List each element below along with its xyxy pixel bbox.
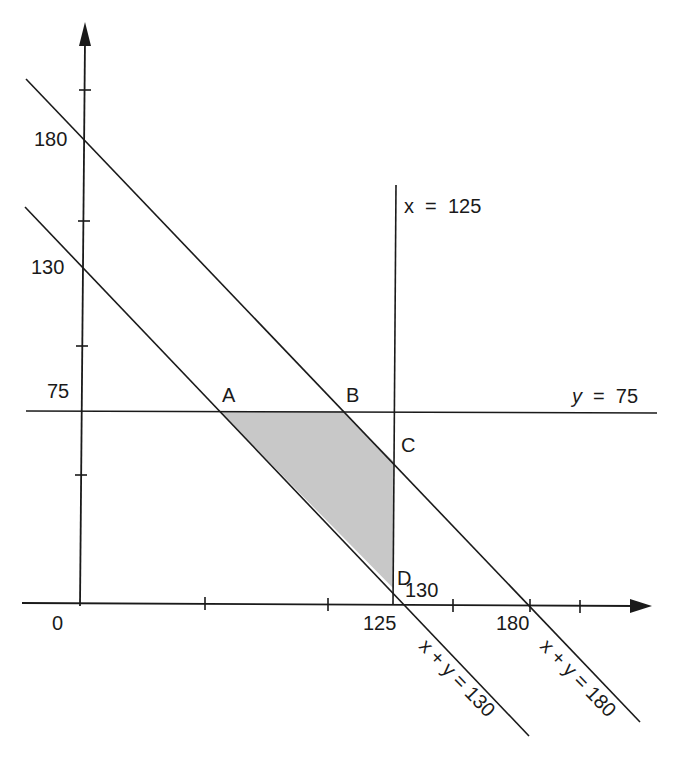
point-b-label: B (346, 384, 359, 406)
label-x-equals-125: x = 125 (404, 195, 481, 217)
label-x-plus-y-130: x + y = 130 (415, 634, 500, 720)
point-d-label: D (397, 567, 411, 589)
label-x-plus-y-180: x + y = 180 (536, 634, 621, 720)
line-x-equals-125 (393, 185, 396, 605)
y-label-130: 130 (31, 256, 64, 278)
label-y-equals-75: = 75 (593, 385, 638, 407)
point-a-label: A (222, 384, 236, 406)
x-label-180: 180 (496, 612, 529, 634)
x-label-125: 125 (363, 612, 396, 634)
line-y-equals-75 (26, 411, 657, 413)
y-axis (80, 40, 85, 606)
line-x-plus-y-180 (26, 79, 640, 722)
point-c-label: C (401, 434, 415, 456)
y-label-180: 180 (34, 128, 67, 150)
y-label-75: 75 (47, 380, 69, 402)
y-axis-arrow-icon (79, 22, 91, 46)
label-y-equals-75-var: y (570, 385, 583, 407)
origin-label: 0 (52, 612, 63, 634)
linear-programming-diagram: 0 180 130 75 125 130 180 x = 125 y = 75 … (0, 0, 673, 775)
x-axis-arrow-icon (630, 599, 652, 613)
